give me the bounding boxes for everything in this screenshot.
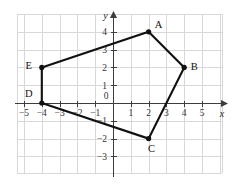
vertex-label-a: A bbox=[155, 19, 163, 30]
y-tick-label: −2 bbox=[97, 134, 107, 144]
vertex-label-e: E bbox=[26, 60, 32, 71]
x-tick-label: 4 bbox=[182, 108, 187, 118]
y-tick-label: 2 bbox=[102, 63, 107, 73]
origin-label: 0 bbox=[104, 91, 109, 101]
vertex-label-d: D bbox=[25, 88, 33, 99]
axes bbox=[15, 11, 228, 177]
vertex-point-c bbox=[146, 136, 151, 141]
y-tick-label: −3 bbox=[97, 152, 107, 162]
x-tick-label: −4 bbox=[37, 108, 47, 118]
x-tick-label: 3 bbox=[164, 108, 169, 118]
axis-names: xy bbox=[102, 10, 225, 119]
vertex-point-a bbox=[146, 29, 151, 34]
vertex-label-b: B bbox=[191, 61, 198, 72]
x-tick-label: 2 bbox=[146, 108, 151, 118]
axis-tick-labels: −5−4−3−2−1123454321−1−2−30 bbox=[19, 27, 205, 162]
vertex-point-b bbox=[182, 65, 187, 70]
coordinate-plane-svg: −5−4−3−2−1123454321−1−2−30 xy ABCDE bbox=[0, 0, 237, 187]
y-tick-label: 1 bbox=[102, 81, 107, 91]
vertex-point-d bbox=[39, 100, 44, 105]
x-tick-label: −5 bbox=[19, 108, 29, 118]
y-axis-label: y bbox=[102, 10, 108, 21]
grid-lines bbox=[17, 14, 223, 174]
vertex-label-c: C bbox=[148, 143, 155, 154]
y-tick-label: 4 bbox=[102, 27, 107, 37]
x-tick-label: 1 bbox=[128, 108, 133, 118]
x-axis-label: x bbox=[219, 108, 225, 119]
x-tick-label: 5 bbox=[200, 108, 205, 118]
coordinate-plane-figure: −5−4−3−2−1123454321−1−2−30 xy ABCDE bbox=[0, 0, 237, 187]
vertex-point-e bbox=[39, 65, 44, 70]
